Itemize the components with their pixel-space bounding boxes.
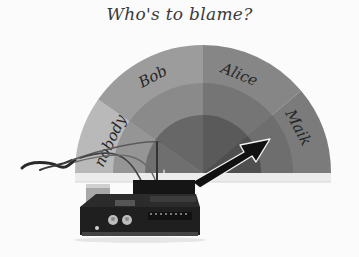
arduino-board	[80, 180, 200, 236]
blame-gauge: nobody Bob Alice Maik	[0, 0, 359, 257]
photo-scene: Who's to blame? nobody Bob Alice Maik	[0, 0, 359, 257]
